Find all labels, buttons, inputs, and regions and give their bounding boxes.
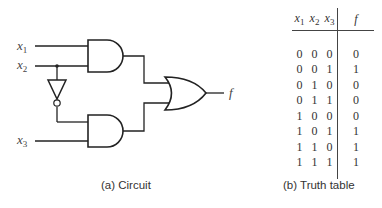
truth-table-header: x1 x2 x3 f	[292, 8, 374, 31]
header-x1: x1	[292, 8, 307, 31]
circuit-caption: (a) Circuit	[101, 179, 151, 191]
cell: 1	[307, 140, 322, 156]
cell-f: 0	[338, 109, 375, 125]
cell: 1	[292, 124, 307, 140]
cell: 1	[322, 155, 338, 171]
output-label-f: f	[229, 85, 235, 100]
cell: 0	[292, 78, 307, 94]
table-row: 1000	[292, 109, 374, 125]
cell-f: 1	[338, 62, 375, 78]
wire-and1-to-or	[123, 56, 169, 83]
cell: 1	[322, 124, 338, 140]
cell-f: 1	[338, 155, 375, 171]
cell: 1	[292, 109, 307, 125]
cell: 1	[322, 93, 338, 109]
cell: 1	[307, 78, 322, 94]
cell-f: 0	[338, 93, 375, 109]
header-x2: x2	[307, 8, 322, 31]
cell: 0	[322, 109, 338, 125]
table-row: 1011	[292, 124, 374, 140]
cell: 0	[307, 62, 322, 78]
and-gate-1	[88, 40, 123, 72]
cell: 0	[307, 109, 322, 125]
cell-f: 1	[338, 124, 375, 140]
cell: 1	[307, 155, 322, 171]
truth-table-caption: (b) Truth table	[283, 179, 355, 191]
input-label-x2: x2	[16, 57, 27, 74]
circuit-diagram: x1 x2 x3 f	[0, 0, 260, 208]
cell-f: 0	[338, 78, 375, 94]
cell-f: 1	[338, 140, 375, 156]
cell: 0	[322, 47, 338, 63]
cell: 0	[292, 47, 307, 63]
table-row: 0110	[292, 93, 374, 109]
wire-and2-to-or	[123, 103, 169, 131]
cell: 1	[322, 62, 338, 78]
junction-dot	[55, 64, 59, 68]
cell: 0	[307, 124, 322, 140]
or-gate	[165, 77, 206, 110]
header-f: f	[338, 8, 375, 31]
table-row: 0100	[292, 78, 374, 94]
truth-table: x1 x2 x3 f 0000 0011 0100 0110 1000 1011…	[292, 8, 374, 179]
cell: 1	[307, 93, 322, 109]
not-gate	[48, 80, 66, 99]
cell: 0	[307, 47, 322, 63]
and-gate-2	[88, 115, 123, 147]
not-gate-bubble	[54, 100, 60, 106]
cell: 0	[292, 93, 307, 109]
cell-f: 0	[338, 47, 375, 63]
cell: 0	[322, 140, 338, 156]
header-x3: x3	[322, 8, 338, 31]
cell: 1	[292, 155, 307, 171]
cell: 0	[292, 62, 307, 78]
input-label-x1: x1	[16, 38, 27, 55]
input-label-x3: x3	[16, 132, 28, 149]
cell: 0	[322, 78, 338, 94]
table-row: 0011	[292, 62, 374, 78]
table-row: 1101	[292, 140, 374, 156]
cell: 1	[292, 140, 307, 156]
table-row: 1111	[292, 155, 374, 171]
table-row: 0000	[292, 47, 374, 63]
